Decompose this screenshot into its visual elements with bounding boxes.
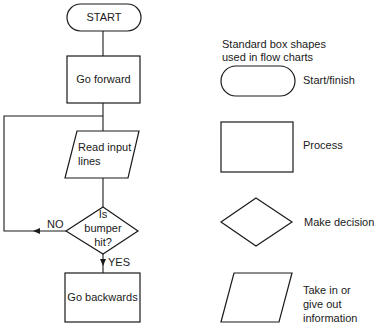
legend-diamond-shape xyxy=(221,198,292,246)
legend-label-io-3: information xyxy=(303,312,357,325)
read-input-io xyxy=(65,131,139,178)
yes-label: YES xyxy=(108,256,130,269)
legend-title-1: Standard box shapes xyxy=(222,38,326,51)
start-label: START xyxy=(67,11,141,24)
go-forward-label: Go forward xyxy=(67,73,140,86)
go-backwards-label: Go backwards xyxy=(65,291,140,304)
read-input-label-1: Read input xyxy=(78,141,131,154)
read-input-label-2: lines xyxy=(78,155,101,168)
arrow-yes-icon xyxy=(100,259,106,266)
legend-parallelogram-shape xyxy=(221,273,292,322)
legend-pill-shape xyxy=(221,66,295,96)
legend-label-process: Process xyxy=(303,139,343,152)
arrow-no-icon xyxy=(33,228,40,234)
legend-rect-shape xyxy=(221,122,293,172)
legend-label-start-finish: Start/finish xyxy=(303,74,355,87)
decision-label-3: hit? xyxy=(78,236,128,249)
legend-label-decision: Make decision xyxy=(304,216,374,229)
decision-label-2: bumper xyxy=(78,222,128,235)
legend-label-io-1: Take in or xyxy=(303,284,351,297)
legend-title-2: used in flow charts xyxy=(222,51,313,64)
decision-label-1: Is xyxy=(78,208,128,221)
legend-label-io-2: give out xyxy=(303,298,342,311)
no-label: NO xyxy=(47,218,64,231)
